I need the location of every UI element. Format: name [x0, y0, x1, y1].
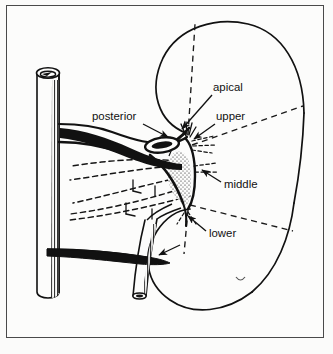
- leader-middle: [202, 170, 221, 182]
- label-upper: upper: [216, 110, 245, 122]
- segment-boundary-lines: [184, 24, 303, 254]
- leader-renal-vein-unlabeled: [159, 245, 180, 255]
- cortical-surface-mark: [236, 277, 245, 280]
- middle-segmental-twigs: [194, 163, 218, 172]
- label-posterior: posterior: [92, 110, 137, 122]
- major-calyx-loop: [144, 135, 180, 155]
- boundary-upper-middle: [192, 106, 303, 145]
- label-apical: apical: [213, 81, 243, 93]
- aorta: [37, 68, 60, 298]
- figure-page: posterior apical upper middle lower: [0, 0, 333, 354]
- leader-lower: [188, 216, 206, 231]
- kidney-segments-illustration: posterior apical upper middle lower: [0, 0, 333, 354]
- leader-apical: [182, 95, 212, 129]
- label-middle: middle: [224, 178, 258, 190]
- ureter: [133, 204, 181, 299]
- leader-posterior: [143, 124, 168, 137]
- posterior-branch-terminations: [126, 180, 155, 219]
- label-lower: lower: [209, 227, 236, 239]
- boundary-middle-lower: [190, 205, 293, 231]
